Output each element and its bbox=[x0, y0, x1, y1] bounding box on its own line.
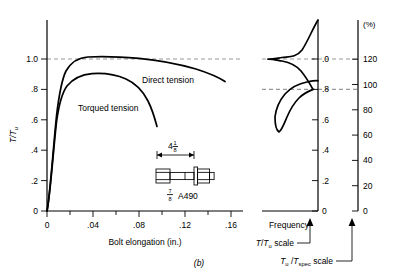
bolt-shank bbox=[170, 172, 194, 179]
percent-tick-100: 100 bbox=[363, 80, 377, 90]
x-tick-label-0: 0 bbox=[45, 220, 50, 230]
freq-tick-label-0: 0 bbox=[322, 206, 327, 216]
percent-axis-unit: (%) bbox=[363, 20, 376, 29]
freq-tick-label-04: .4 bbox=[322, 145, 329, 155]
panel-frequency-distribution: 0 .2 .4 .6 .8 .0 Frequency (%) 0 20 40 6… bbox=[262, 20, 377, 230]
percent-tick-40: 40 bbox=[363, 155, 373, 165]
y-axis-title: T/Tu bbox=[8, 126, 19, 143]
figure-canvas: 0 .2 .4 .6 .8 1.0 T/Tu 0 .04 .08 .12 .16 bbox=[0, 0, 399, 275]
svg-text:8: 8 bbox=[173, 147, 176, 153]
x-tick-label-004: .04 bbox=[87, 220, 99, 230]
svg-text:7: 7 bbox=[168, 188, 171, 194]
y-tick-label-02: .2 bbox=[31, 176, 38, 186]
dimension-arrow-right-icon bbox=[189, 153, 194, 158]
freq-tick-label-06: .6 bbox=[322, 115, 329, 125]
svg-text:1: 1 bbox=[173, 140, 176, 146]
series-label-torqued-tension: Torqued tension bbox=[78, 103, 139, 113]
percent-tick-60: 60 bbox=[363, 130, 373, 140]
panel-tension-elongation: 0 .2 .4 .6 .8 1.0 T/Tu 0 .04 .08 .12 .16 bbox=[8, 20, 243, 247]
callout-arrow-up-icon-2 bbox=[349, 218, 356, 226]
bolt-length-label: 4 1 8 bbox=[168, 140, 178, 153]
bolt-washer bbox=[194, 167, 198, 185]
callout-label-tu-scale: T/Tu scale bbox=[256, 238, 294, 249]
bolt-diagram: 4 1 8 7 8 bbox=[156, 140, 214, 202]
bolt-diameter-label: 7 8 bbox=[167, 188, 173, 202]
svg-text:T/Tu: T/Tu bbox=[8, 126, 19, 143]
x-axis-title: Bolt elongation (in.) bbox=[108, 237, 181, 247]
freq-tick-label-02: .2 bbox=[322, 176, 329, 186]
y-tick-label-04: .4 bbox=[31, 145, 38, 155]
callout-label-tspec-scale: Tu /Tspec scale bbox=[280, 256, 333, 267]
figure-bolt-tension-elongation: 0 .2 .4 .6 .8 1.0 T/Tu 0 .04 .08 .12 .16 bbox=[0, 0, 399, 275]
figure-caption: (b) bbox=[194, 258, 205, 268]
bolt-nut bbox=[198, 169, 210, 183]
x-tick-label-008: .08 bbox=[133, 220, 145, 230]
frequency-axis-label: Frequency bbox=[269, 220, 310, 230]
distribution-direct-tension bbox=[268, 20, 318, 89]
freq-tick-label-08: .8 bbox=[322, 84, 329, 94]
y-tick-label-06: .6 bbox=[31, 115, 38, 125]
y-tick-label-08: .8 bbox=[31, 84, 38, 94]
series-torqued-tension bbox=[47, 73, 157, 211]
percent-tick-120: 120 bbox=[363, 54, 377, 64]
percent-tick-20: 20 bbox=[363, 181, 373, 191]
bolt-head bbox=[156, 169, 170, 183]
y-axis-ticks bbox=[41, 59, 47, 211]
svg-text:8: 8 bbox=[168, 196, 171, 202]
series-label-direct-tension: Direct tension bbox=[142, 75, 194, 85]
percent-tick-80: 80 bbox=[363, 105, 373, 115]
y-tick-label-10: 1.0 bbox=[26, 54, 38, 64]
y-tick-label-0: 0 bbox=[33, 206, 38, 216]
svg-text:4: 4 bbox=[168, 141, 173, 151]
percent-tick-0: 0 bbox=[363, 206, 368, 216]
x-axis-ticks bbox=[47, 211, 231, 217]
x-tick-label-016: .16 bbox=[225, 220, 237, 230]
percent-axis-ticks bbox=[352, 59, 358, 211]
freq-tick-label-10: .0 bbox=[322, 54, 329, 64]
bolt-grade-label: A490 bbox=[178, 191, 198, 201]
dimension-arrow-left-icon bbox=[157, 153, 162, 158]
x-tick-label-012: .12 bbox=[179, 220, 191, 230]
bolt-thread-tail bbox=[210, 172, 215, 179]
